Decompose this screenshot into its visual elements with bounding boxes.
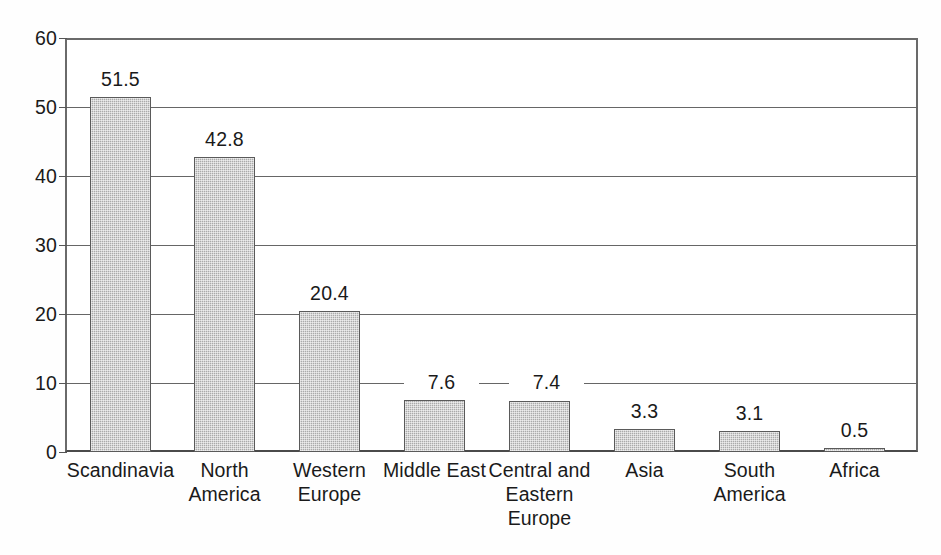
- value-label-north-america: 42.8: [194, 130, 255, 150]
- value-label-central-and-eastern-europe: 7.4: [509, 373, 584, 393]
- bar-south-america[interactable]: [719, 431, 780, 452]
- bar-central-and-eastern-europe[interactable]: [509, 401, 570, 452]
- bar-asia[interactable]: [614, 429, 675, 452]
- bar-chart: 60 50 40 30 20 10 0 51.5 42.8 20.4 7.6 7…: [0, 0, 941, 555]
- value-label-middle-east: 7.6: [404, 373, 479, 393]
- value-label-africa: 0.5: [824, 421, 885, 441]
- value-label-western-europe: 20.4: [299, 284, 360, 304]
- bar-africa[interactable]: [824, 448, 885, 452]
- value-label-south-america: 3.1: [719, 404, 780, 424]
- value-label-scandinavia: 51.5: [90, 70, 151, 90]
- value-label-asia: 3.3: [614, 402, 675, 422]
- category-label-africa: Africa: [792, 459, 917, 483]
- bar-north-america[interactable]: [194, 157, 255, 452]
- bar-western-europe[interactable]: [299, 311, 360, 452]
- bar-scandinavia[interactable]: [90, 97, 151, 452]
- bar-middle-east[interactable]: [404, 400, 465, 452]
